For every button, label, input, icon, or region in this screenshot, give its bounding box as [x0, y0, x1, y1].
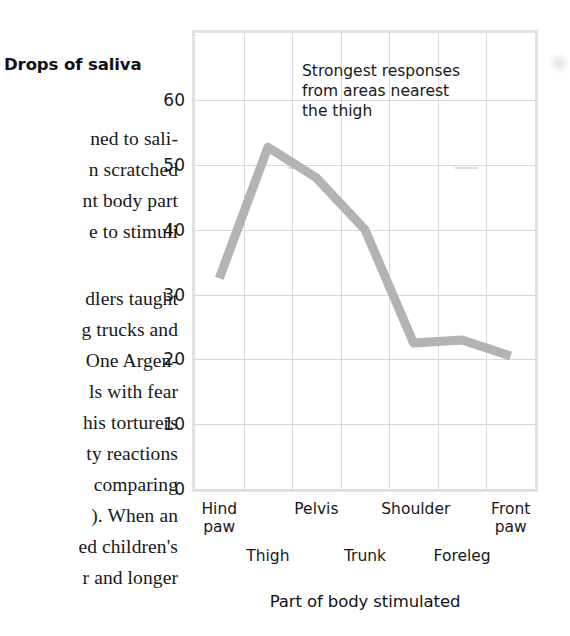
x-axis-tick-label: Thigh	[236, 547, 301, 565]
gridline-vertical	[486, 33, 487, 489]
gridline-horizontal	[195, 489, 535, 490]
gridline-horizontal	[195, 359, 535, 360]
x-axis-tick-label: Pelvis	[284, 500, 349, 518]
gridline-horizontal	[195, 295, 535, 296]
page-smudge	[548, 52, 570, 74]
x-axis-tick-label: Hind paw	[187, 500, 252, 537]
x-axis-tick-label: Shoulder	[381, 500, 446, 518]
x-axis-tick-label: Foreleg	[430, 547, 495, 565]
strongest-responses-note: Strongest responses from areas nearest t…	[302, 62, 460, 121]
gridline-horizontal	[195, 424, 535, 425]
x-axis-title: Part of body stimulated	[192, 592, 538, 611]
gridline-horizontal	[195, 165, 535, 166]
gridline-horizontal	[195, 230, 535, 231]
y-axis-tick-label: 50	[139, 155, 185, 175]
y-axis-tick-label: 20	[139, 349, 185, 369]
y-axis-tick-label: 30	[139, 285, 185, 305]
x-axis-tick-label: Trunk	[333, 547, 398, 565]
y-axis-tick-label: 60	[139, 90, 185, 110]
gridline-vertical	[244, 33, 245, 489]
saliva-line-chart: 0102030405060 Strongest responses from a…	[0, 0, 570, 636]
x-axis-tick-label: Front paw	[478, 500, 543, 537]
gridline-vertical	[292, 33, 293, 489]
y-axis-tick-label: 40	[139, 220, 185, 240]
y-axis-tick-label: 10	[139, 414, 185, 434]
y-axis-ticks: 0102030405060	[135, 30, 185, 492]
y-axis-tick-label: 0	[139, 479, 185, 499]
page-canvas: Drops of saliva ned to sali- n scratched…	[0, 0, 570, 636]
